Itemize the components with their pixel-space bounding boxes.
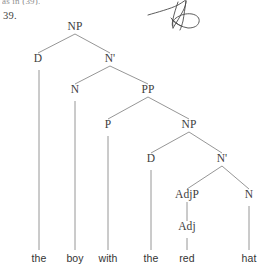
- tree-node-np-2: NP: [182, 118, 197, 130]
- tree-leaf-leaf-hat: hat: [242, 252, 257, 264]
- tree-node-p-1: P: [105, 118, 112, 130]
- tree-branch-np-2-to-d-2: [151, 132, 189, 153]
- tree-node-np-root: NP: [68, 20, 83, 32]
- tree-branch-nbar-1-to-pp-1: [110, 66, 148, 84]
- tree-leaf-leaf-the-2: the: [144, 252, 159, 264]
- syntax-tree-lines: [0, 0, 271, 270]
- tree-branch-np-root-to-nbar-1: [75, 34, 110, 53]
- tree-branch-nbar-1-to-n-1: [75, 66, 110, 84]
- tree-leaf-leaf-red: red: [179, 252, 194, 264]
- tree-node-d-1: D: [34, 52, 42, 64]
- tree-branch-pp-1-to-p-1: [108, 97, 148, 119]
- tree-edge-group: [38, 34, 249, 221]
- tree-leaf-leaf-the-1: the: [32, 252, 47, 264]
- tree-node-adj-1: Adj: [178, 220, 196, 232]
- page-canvas: as in (39). 39. NPDN'NPPPNPDN'AdjPNAdj t…: [0, 0, 271, 270]
- tree-node-d-2: D: [147, 152, 155, 164]
- tree-node-nbar-2: N': [217, 152, 228, 164]
- tree-leaf-leaf-boy: boy: [66, 252, 83, 264]
- tree-branch-pp-1-to-np-2: [148, 97, 189, 119]
- tree-node-adjp-1: AdjP: [175, 188, 199, 200]
- tree-branch-np-2-to-nbar-2: [189, 132, 222, 153]
- tree-branch-nbar-2-to-n-2: [222, 166, 249, 189]
- tree-node-nbar-1: N': [105, 52, 116, 64]
- tree-node-n-2: N: [245, 188, 253, 200]
- tree-leaf-leaf-with: with: [98, 252, 117, 264]
- tree-node-pp-1: PP: [142, 83, 155, 95]
- tree-branch-np-root-to-d-1: [38, 34, 75, 53]
- tree-node-n-1: N: [71, 83, 79, 95]
- tree-branch-nbar-2-to-adjp-1: [187, 166, 222, 189]
